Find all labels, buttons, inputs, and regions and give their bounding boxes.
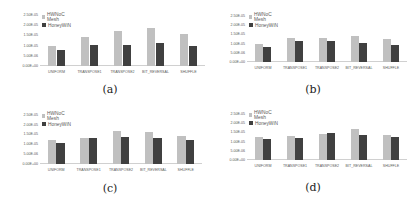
y-axis-labels: 2.50E-052.00E-051.50E-051.00E-055.00E-06… <box>14 115 38 164</box>
bar-honeywin <box>90 45 99 66</box>
legend-label: HoneyWiN <box>255 23 278 28</box>
legend-swatch <box>42 114 45 118</box>
x-tick-label: UNIFORM <box>255 164 272 168</box>
bar-hwnoc-mesh <box>114 31 123 66</box>
y-tick-label: 1.00E-05 <box>230 140 245 144</box>
y-tick-label: 0.00E+00 <box>230 60 246 64</box>
legend-item: HWNoC Mesh <box>249 111 278 119</box>
bar-hwnoc-mesh <box>255 44 263 62</box>
bar-honeywin <box>263 139 271 160</box>
x-tick-label: TRANSPOSE1 <box>77 70 101 74</box>
legend: HWNoC MeshHoneyWiN <box>42 13 71 29</box>
y-tick-label: 1.00E-05 <box>23 44 38 48</box>
legend-swatch <box>249 121 253 125</box>
bar-hwnoc-mesh <box>383 135 391 160</box>
bar-honeywin <box>56 143 64 164</box>
bar-honeywin <box>327 41 335 62</box>
bar-honeywin <box>295 41 303 62</box>
bar-honeywin <box>123 45 132 66</box>
y-tick-label: 5.00E-06 <box>230 149 245 153</box>
y-tick-label: 2.50E-05 <box>23 13 38 17</box>
x-tick-label: TRANSPOSE2 <box>315 164 339 168</box>
legend: HWNoC MeshHoneyWiN <box>42 112 71 128</box>
legend-item: HoneyWiN <box>249 119 278 127</box>
y-tick-label: 2.00E-05 <box>230 23 245 27</box>
legend-swatch <box>249 23 253 27</box>
x-tick-label: TRANSPOSE1 <box>76 168 100 172</box>
legend-swatch <box>42 23 46 27</box>
x-tick-label: BIT_REVERSAL <box>346 164 373 168</box>
bar-honeywin <box>295 138 303 160</box>
y-tick-label: 5.00E-06 <box>230 51 245 55</box>
bar-group: TRANSPOSE2 <box>311 114 343 160</box>
legend-swatch <box>42 122 46 126</box>
bar-honeywin <box>391 45 399 62</box>
bar-group: TRANSPOSE2 <box>311 16 343 62</box>
legend-swatch <box>249 113 252 117</box>
x-tick-label: TRANSPOSE2 <box>315 66 339 70</box>
bar-honeywin <box>153 138 161 163</box>
bar-honeywin <box>327 133 335 160</box>
x-tick-label: UNIFORM <box>48 70 65 74</box>
y-tick-label: 1.00E-05 <box>230 42 245 46</box>
legend-label: HWNoC Mesh <box>47 12 71 22</box>
y-tick-label: 2.50E-05 <box>23 113 38 117</box>
bar-hwnoc-mesh <box>351 36 359 62</box>
x-tick-label: TRANSPOSE1 <box>283 164 307 168</box>
bar-hwnoc-mesh <box>180 34 189 66</box>
bar-honeywin <box>89 138 97 164</box>
bar-group: TRANSPOSE1 <box>279 16 311 62</box>
bar-hwnoc-mesh <box>147 28 156 66</box>
legend-label: HoneyWiN <box>48 122 71 127</box>
y-tick-label: 1.50E-05 <box>230 130 245 134</box>
x-tick-label: SHUFFLE <box>383 164 399 168</box>
bar-group: BIT_REVERSAL <box>137 115 169 164</box>
y-tick-label: 2.50E-05 <box>230 14 245 18</box>
y-tick-label: 0.00E+00 <box>23 162 39 166</box>
bar-group: TRANSPOSE2 <box>105 115 137 164</box>
bar-honeywin <box>359 135 367 160</box>
legend-label: HWNoC Mesh <box>254 110 278 120</box>
legend-item: HWNoC Mesh <box>42 13 71 21</box>
x-tick-label: TRANSPOSE2 <box>110 70 134 74</box>
x-tick-label: BIT_REVERSAL <box>346 66 373 70</box>
legend-swatch <box>249 15 252 19</box>
legend-label: HWNoC Mesh <box>47 111 71 121</box>
bar-group: SHUFFLE <box>375 16 407 62</box>
legend-label: HoneyWiN <box>48 23 71 28</box>
bar-hwnoc-mesh <box>287 136 295 160</box>
y-tick-label: 5.00E-06 <box>23 54 38 58</box>
legend-label: HWNoC Mesh <box>254 12 278 22</box>
legend-item: HoneyWiN <box>42 120 71 128</box>
y-tick-label: 2.00E-05 <box>230 121 245 125</box>
x-tick-label: SHUFFLE <box>383 66 399 70</box>
legend-item: HWNoC Mesh <box>42 112 71 120</box>
y-tick-label: 0.00E+00 <box>230 158 246 162</box>
y-tick-label: 0.00E+00 <box>23 64 39 68</box>
bar-hwnoc-mesh <box>113 131 121 163</box>
bar-hwnoc-mesh <box>255 137 263 160</box>
x-tick-label: UNIFORM <box>255 66 272 70</box>
bar-group: TRANSPOSE1 <box>72 115 104 164</box>
bar-hwnoc-mesh <box>287 38 295 62</box>
legend: HWNoC MeshHoneyWiN <box>249 111 278 127</box>
bar-honeywin <box>156 43 165 66</box>
bar-honeywin <box>263 47 271 62</box>
bar-hwnoc-mesh <box>48 46 57 66</box>
x-tick-label: SHUFFLE <box>178 168 194 172</box>
x-tick-label: TRANSPOSE1 <box>283 66 307 70</box>
y-tick-label: 1.50E-05 <box>23 132 38 136</box>
bar-hwnoc-mesh <box>80 138 88 163</box>
bar-hwnoc-mesh <box>145 132 153 163</box>
bar-hwnoc-mesh <box>81 37 90 66</box>
y-tick-label: 2.50E-05 <box>230 112 245 116</box>
y-tick-label: 2.00E-05 <box>23 23 38 27</box>
legend-label: HoneyWiN <box>255 121 278 126</box>
x-tick-label: UNIFORM <box>48 168 65 172</box>
bar-honeywin <box>359 43 367 63</box>
bar-hwnoc-mesh <box>177 136 185 163</box>
y-axis-labels: 2.50E-052.00E-051.50E-051.00E-055.00E-06… <box>221 16 245 62</box>
bar-hwnoc-mesh <box>319 134 327 160</box>
x-tick-label: BIT_REVERSAL <box>140 168 167 172</box>
figure-caption: (c) <box>103 182 118 195</box>
